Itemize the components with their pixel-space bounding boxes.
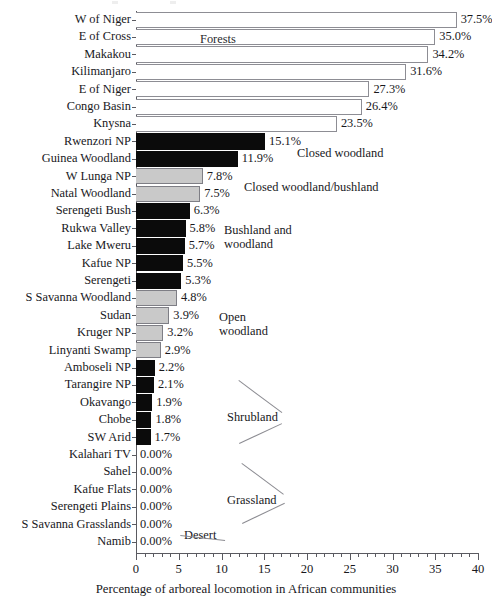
y-axis-tick: [132, 542, 136, 543]
value-label: 1.8%: [155, 411, 181, 428]
category-label: Serengeti Bush: [56, 202, 131, 219]
value-label: 0.00%: [140, 481, 172, 498]
group-label-grassland: Grassland: [227, 494, 277, 508]
chart-row: Kruger NP3.2%: [136, 324, 478, 341]
bar: [136, 186, 200, 202]
bar: [136, 12, 457, 28]
chart-row: S Savanna Woodland4.8%: [136, 289, 478, 306]
x-axis-tick-label: 25: [343, 562, 356, 577]
group-label-bushland-and-woodland-line2: woodland: [224, 238, 273, 252]
chart-row: Tarangire NP2.1%: [136, 376, 478, 393]
chart-row: Linyanti Swamp2.9%: [136, 342, 478, 359]
y-axis-tick: [132, 455, 136, 456]
chart-row: Kilimanjaro31.6%: [136, 63, 478, 80]
chart-row: W of Niger37.5%: [136, 11, 478, 28]
plot-area: W of Niger37.5%E of Cross35.0%Makakou34.…: [136, 11, 478, 553]
x-axis-minor-tick: [290, 553, 291, 557]
value-label: 3.2%: [167, 324, 193, 341]
bar: [136, 238, 185, 254]
chart-row: SW Arid1.7%: [136, 429, 478, 446]
x-axis-title: Percentage of arboreal locomotion in Afr…: [0, 582, 492, 597]
value-label: 2.9%: [165, 342, 191, 359]
chart-row: Chobe1.8%: [136, 411, 478, 428]
bar: [136, 377, 154, 393]
value-label: 31.6%: [410, 63, 442, 80]
value-label: 27.3%: [373, 81, 405, 98]
chart-row: Lake Mweru5.7%: [136, 237, 478, 254]
x-axis-minor-tick: [239, 553, 240, 557]
value-label: 23.5%: [341, 115, 373, 132]
value-label: 5.3%: [185, 272, 211, 289]
x-axis-tick-label: 35: [429, 562, 442, 577]
top-edge-artifact: [112, 1, 322, 4]
chart-row: Kafue Flats0.00%: [136, 481, 478, 498]
category-label: Kruger NP: [77, 324, 131, 341]
category-label: Guinea Woodland: [42, 150, 131, 167]
bar: [136, 255, 183, 271]
chart-page: W of Niger37.5%E of Cross35.0%Makakou34.…: [0, 0, 492, 608]
category-label: Tarangire NP: [65, 376, 131, 393]
y-axis-tick: [132, 472, 136, 473]
group-label-forests: Forests: [200, 33, 236, 47]
category-label: Chobe: [99, 411, 131, 428]
y-axis-tick: [132, 524, 136, 525]
category-label: E of Niger: [79, 81, 131, 98]
bar: [136, 307, 169, 323]
chart-row: E of Niger27.3%: [136, 81, 478, 98]
bar: [136, 342, 161, 358]
group-label-bushland-and-woodland-line1: Bushland and: [224, 224, 292, 238]
x-axis-minor-tick: [375, 553, 376, 557]
bar: [136, 325, 163, 341]
chart-row: Serengeti5.3%: [136, 272, 478, 289]
x-axis-major-tick: [307, 553, 308, 560]
category-label: Rwenzori NP: [64, 133, 131, 150]
category-label: Sahel: [103, 463, 131, 480]
x-axis-major-tick: [393, 553, 394, 560]
value-label: 7.5%: [204, 185, 230, 202]
category-label: Okavango: [80, 394, 131, 411]
value-label: 35.0%: [439, 28, 471, 45]
bar: [136, 99, 362, 115]
value-label: 0.00%: [140, 516, 172, 533]
x-axis-minor-tick: [418, 553, 419, 557]
x-axis-major-tick: [136, 553, 137, 560]
chart-row: Kafue NP5.5%: [136, 255, 478, 272]
value-label: 7.8%: [207, 168, 233, 185]
value-label: 26.4%: [366, 98, 398, 115]
category-label: S Savanna Grasslands: [22, 516, 131, 533]
x-axis-minor-tick: [333, 553, 334, 557]
x-axis-minor-tick: [162, 553, 163, 557]
group-label-closed-woodland-bushland: Closed woodland/bushland: [244, 181, 379, 195]
x-axis-minor-tick: [401, 553, 402, 557]
value-label: 5.8%: [190, 220, 216, 237]
x-axis-minor-tick: [341, 553, 342, 557]
bar: [136, 394, 152, 410]
x-axis-minor-tick: [281, 553, 282, 557]
chart-row: Sahel0.00%: [136, 463, 478, 480]
bar: [136, 273, 181, 289]
category-label: Amboseli NP: [64, 359, 131, 376]
x-axis-minor-tick: [170, 553, 171, 557]
value-label: 3.9%: [173, 307, 199, 324]
x-axis-minor-tick: [324, 553, 325, 557]
x-axis-tick-label: 30: [386, 562, 399, 577]
chart-row: Serengeti Bush6.3%: [136, 202, 478, 219]
value-label: 5.7%: [189, 237, 215, 254]
x-axis-minor-tick: [410, 553, 411, 557]
chart-row: E of Cross35.0%: [136, 28, 478, 45]
category-label: Linyanti Swamp: [49, 342, 131, 359]
group-label-open-woodland-line1: Open: [219, 311, 246, 325]
value-label: 4.8%: [181, 289, 207, 306]
group-label-shrubland: Shrubland: [227, 411, 278, 425]
x-axis-minor-tick: [187, 553, 188, 557]
bar: [136, 116, 337, 132]
category-label: Sudan: [100, 307, 131, 324]
category-label: Kalahari TV: [69, 446, 131, 463]
x-axis-major-tick: [179, 553, 180, 560]
bar: [136, 220, 186, 236]
x-axis-minor-tick: [256, 553, 257, 557]
x-axis-minor-tick: [316, 553, 317, 557]
x-axis-tick-label: 15: [258, 562, 271, 577]
chart-row: Sudan3.9%: [136, 307, 478, 324]
value-label: 0.00%: [140, 446, 172, 463]
